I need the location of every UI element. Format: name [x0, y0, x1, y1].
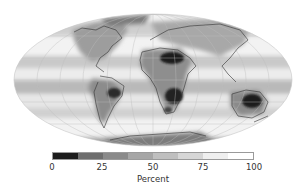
colorbar-tick: 25: [97, 163, 108, 172]
world-map: [0, 0, 299, 150]
colorbar-tick: 75: [198, 163, 209, 172]
colorbar-tick: 50: [148, 163, 159, 172]
colorbar-segment: [78, 153, 103, 159]
colorbar-segment: [178, 153, 203, 159]
colorbar-label: Percent: [137, 175, 169, 184]
colorbar-segment: [53, 153, 78, 159]
colorbar-segment: [203, 153, 228, 159]
colorbar-segment: [228, 153, 253, 159]
colorbar-tick: 0: [49, 163, 54, 172]
map-field: [0, 0, 299, 150]
colorbar-tick: 100: [246, 163, 262, 172]
colorbar-segment: [153, 153, 178, 159]
colorbar: [52, 152, 254, 160]
colorbar-segment: [128, 153, 153, 159]
colorbar-segment: [103, 153, 128, 159]
